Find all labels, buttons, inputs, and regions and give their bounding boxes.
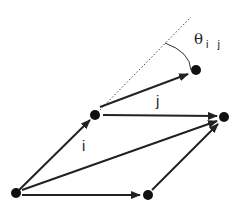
- vector-to-target: [100, 74, 188, 107]
- dotted-reference-line: [95, 17, 191, 115]
- vector-j-from-i: [103, 115, 217, 116]
- label-j: j: [156, 93, 159, 108]
- node-origin: [11, 188, 21, 198]
- vector-i: [16, 120, 90, 193]
- angle-arc: [165, 43, 191, 70]
- node-sum: [219, 112, 229, 122]
- vector-i-from-j: [152, 124, 218, 190]
- angle-label: θi j: [194, 32, 223, 47]
- node-j-end: [143, 190, 153, 200]
- theta-subscript: i j: [206, 38, 223, 50]
- node-target: [191, 65, 201, 75]
- label-i: i: [82, 138, 85, 153]
- theta-symbol: θ: [194, 30, 203, 48]
- node-i-end: [90, 110, 100, 120]
